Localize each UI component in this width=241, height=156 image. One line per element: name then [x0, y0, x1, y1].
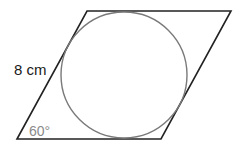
angle-label: 60°	[29, 124, 50, 138]
side-length-label: 8 cm	[14, 62, 47, 77]
geometry-diagram: 8 cm 60°	[0, 0, 241, 156]
inscribed-circle	[61, 12, 187, 138]
rhombus	[17, 11, 231, 139]
